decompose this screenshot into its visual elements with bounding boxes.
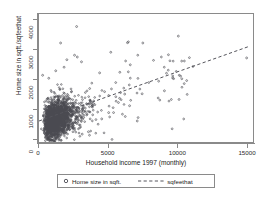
scatter-point — [45, 140, 47, 142]
scatter-point — [108, 112, 110, 114]
scatter-point — [78, 132, 80, 134]
scatter-point — [171, 128, 173, 130]
scatter-point — [88, 131, 90, 133]
scatter-point — [168, 54, 170, 56]
scatter-point — [178, 99, 180, 101]
scatter-point — [74, 102, 76, 104]
scatter-point — [180, 75, 182, 77]
scatter-point — [66, 96, 68, 98]
scatter-point — [101, 118, 103, 120]
scatter-point — [55, 70, 57, 72]
scatter-point — [167, 69, 169, 71]
scatter-point — [163, 90, 165, 92]
scatter-point — [74, 129, 76, 131]
y-tick — [33, 109, 37, 110]
scatter-point — [148, 82, 150, 84]
scatter-point — [119, 71, 121, 73]
scatter-point — [74, 95, 76, 97]
x-tick — [108, 144, 109, 148]
scatter-point — [129, 105, 131, 107]
scatter-point — [99, 95, 101, 97]
scatter-point — [84, 110, 86, 112]
scatter-point — [74, 127, 76, 129]
scatter-point — [172, 60, 174, 62]
scatter-point — [89, 118, 91, 120]
scatter-point — [72, 99, 74, 101]
scatter-point — [158, 80, 160, 82]
scatter-point — [111, 139, 113, 141]
scatter-point — [88, 96, 90, 98]
scatter-point — [109, 116, 111, 118]
scatter-point — [82, 99, 84, 101]
scatter-point — [84, 121, 86, 123]
scatter-point — [142, 42, 144, 44]
scatter-point — [94, 97, 96, 99]
scatter-point — [169, 60, 171, 62]
scatter-point — [97, 111, 99, 113]
scatter-point — [46, 106, 48, 108]
scatter-point — [159, 99, 161, 101]
scatter-point — [62, 88, 64, 90]
scatter-point — [86, 90, 88, 92]
scatter-point — [153, 59, 155, 61]
scatter-point — [127, 71, 129, 73]
x-tick-label: 15000 — [227, 149, 267, 156]
scatter-point — [76, 26, 78, 28]
scatter-point — [75, 131, 77, 133]
scatter-point — [123, 87, 125, 89]
scatter-point — [136, 120, 138, 122]
scatter-point — [128, 84, 130, 86]
scatter-point — [92, 114, 94, 116]
scatter-point — [76, 56, 78, 58]
scatter-point — [166, 72, 168, 74]
scatter-point — [157, 97, 159, 99]
scatter-point — [72, 131, 74, 133]
scatter-point — [51, 91, 53, 93]
scatter-point — [113, 112, 115, 114]
scatter-point — [77, 119, 79, 121]
legend-label-fit: sqfeethat — [167, 178, 192, 185]
scatter-point — [186, 94, 188, 96]
y-tick — [33, 19, 37, 20]
scatter-point — [85, 92, 87, 94]
y-tick-label: 4000 — [27, 19, 34, 45]
x-tick-label: 5000 — [88, 149, 128, 156]
y-tick — [33, 79, 37, 80]
scatter-point — [89, 134, 91, 136]
scatter-point — [78, 103, 80, 105]
scatter-point — [103, 132, 105, 134]
x-axis-title: Household income 1997 (monthly) — [0, 159, 272, 166]
scatter-point — [75, 99, 77, 101]
scatter-point — [85, 107, 87, 109]
x-axis-line — [37, 143, 255, 144]
scatter-point — [66, 59, 68, 61]
scatter-point — [50, 101, 52, 103]
scatter-point — [57, 84, 59, 86]
scatter-point — [125, 60, 127, 62]
scatter-point — [168, 100, 170, 102]
scatter-point — [92, 120, 94, 122]
scatter-point — [141, 93, 143, 95]
scatter-point — [137, 78, 139, 80]
y-tick — [33, 49, 37, 50]
scatter-point — [124, 93, 126, 95]
scatter-point — [67, 120, 69, 122]
scatter-point — [74, 139, 76, 141]
scatter-point — [118, 102, 120, 104]
scatter-point — [111, 88, 113, 90]
scatter-point — [81, 133, 83, 135]
scatter-point — [90, 130, 92, 132]
scatter-point — [82, 112, 84, 114]
scatter-point — [50, 97, 52, 99]
scatter-point — [91, 82, 93, 84]
scatter-point — [104, 91, 106, 93]
y-tick — [33, 139, 37, 140]
scatter-point — [41, 128, 43, 130]
dashed-line-icon — [138, 178, 164, 184]
scatter-points-layer — [41, 26, 248, 143]
scatter-point — [181, 60, 183, 62]
scatter-point — [127, 42, 129, 44]
scatter-point — [73, 104, 75, 106]
scatter-point — [115, 82, 117, 84]
scatter-point — [60, 42, 62, 44]
